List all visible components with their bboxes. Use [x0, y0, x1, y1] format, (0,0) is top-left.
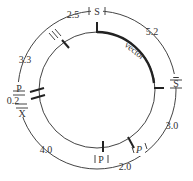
site-label-bottom-right: P: [135, 144, 142, 155]
site-label-left-p: P: [16, 83, 22, 94]
inner-ticks: [30, 22, 164, 152]
distance-bottom-left: 4.0: [40, 144, 53, 155]
site-label-left-x: X: [18, 108, 26, 119]
vector-label: vector: [123, 40, 147, 62]
vector-segment: [97, 32, 154, 83]
distance-top-left: 2.5: [67, 9, 80, 20]
site-label-top: S: [94, 6, 100, 17]
distance-bottom-right: 2.0: [119, 161, 132, 172]
distance-right: 3.0: [166, 120, 179, 131]
distance-left-small: 0.2: [7, 95, 20, 106]
distance-top-right: 5.2: [146, 26, 159, 37]
plasmid-map: S S P P P X 2.5 5.2 3.0 2.0 4.0 0.2 3.3 …: [0, 0, 193, 181]
site-label-bottom: P: [98, 154, 104, 165]
distance-left-upper: 3.3: [19, 54, 32, 65]
site-label-right: S: [173, 78, 179, 89]
